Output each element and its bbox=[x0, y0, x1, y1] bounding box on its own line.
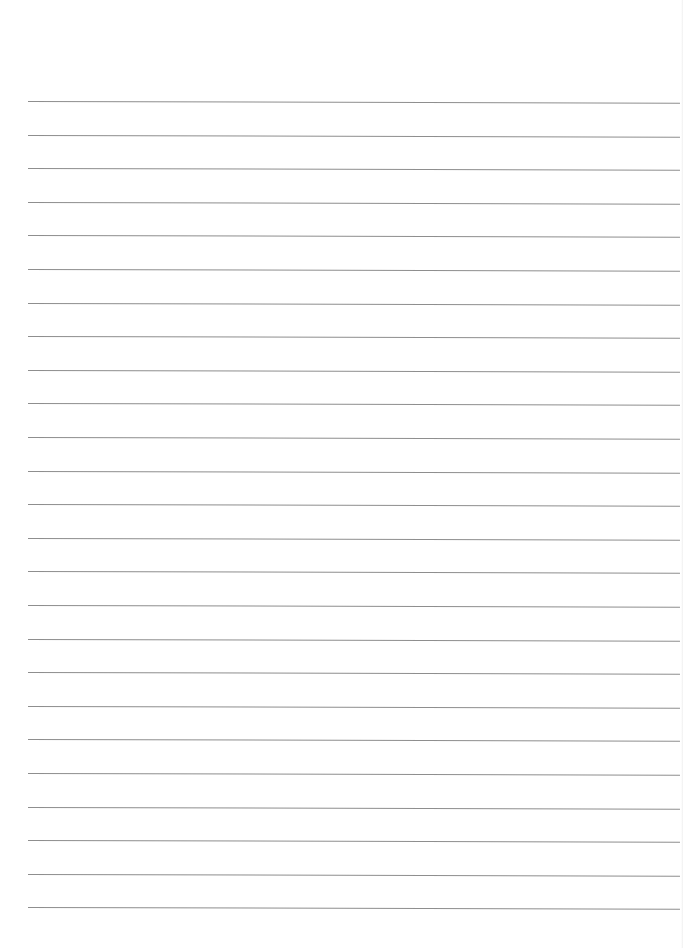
ruled-line bbox=[28, 437, 680, 440]
ruled-line bbox=[28, 471, 680, 474]
ruled-line bbox=[28, 403, 680, 406]
ruled-line bbox=[28, 739, 680, 742]
ruled-line bbox=[28, 336, 680, 339]
lined-paper-page bbox=[0, 0, 683, 948]
ruled-line bbox=[28, 235, 680, 238]
ruled-line bbox=[28, 840, 680, 843]
ruled-line bbox=[28, 706, 680, 709]
ruled-line bbox=[28, 538, 680, 541]
ruled-line bbox=[28, 269, 680, 272]
ruled-line bbox=[28, 370, 680, 373]
ruled-line bbox=[28, 202, 680, 205]
ruled-line bbox=[28, 504, 680, 507]
ruled-line bbox=[28, 639, 680, 642]
ruled-line bbox=[28, 303, 680, 306]
ruled-line bbox=[28, 571, 680, 574]
ruled-line bbox=[28, 101, 680, 104]
ruled-line bbox=[28, 807, 680, 810]
ruled-line bbox=[28, 874, 680, 877]
ruled-line bbox=[28, 773, 680, 776]
ruled-line bbox=[28, 672, 680, 675]
ruled-line bbox=[28, 135, 680, 138]
ruled-line bbox=[28, 605, 680, 608]
ruled-line bbox=[28, 168, 680, 171]
ruled-line bbox=[28, 907, 680, 910]
